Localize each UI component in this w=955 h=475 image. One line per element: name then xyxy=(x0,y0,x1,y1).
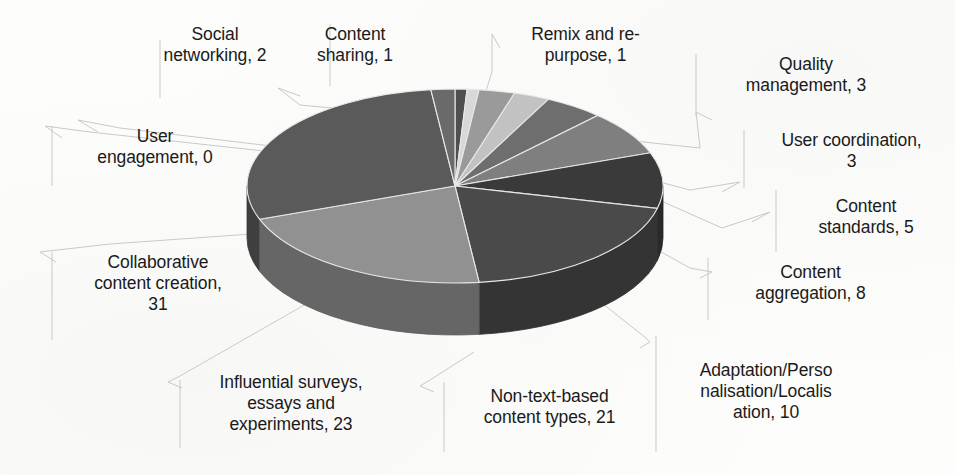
label-collaborative-creation: Collaborative content creation, 31 xyxy=(58,252,258,315)
label-influential-surveys: Influential surveys, essays and experime… xyxy=(186,372,396,435)
label-quality-management: Quality management, 3 xyxy=(706,54,906,96)
label-social-networking: Social networking, 2 xyxy=(125,24,305,66)
pie-chart: Social networking, 2 Content sharing, 1 … xyxy=(0,0,955,475)
label-remix-and-repurpose: Remix and re- purpose, 1 xyxy=(498,24,673,66)
label-non-text-based: Non-text-based content types, 21 xyxy=(452,386,647,428)
label-content-sharing: Content sharing, 1 xyxy=(290,24,420,66)
label-content-standards: Content standards, 5 xyxy=(786,196,946,238)
label-user-coordination: User coordination, 3 xyxy=(754,130,949,172)
label-adaptation-localisation: Adaptation/Perso nalisation/Localis atio… xyxy=(666,360,866,423)
label-user-engagement: User engagement, 0 xyxy=(60,126,250,168)
label-content-aggregation: Content aggregation, 8 xyxy=(718,262,903,304)
